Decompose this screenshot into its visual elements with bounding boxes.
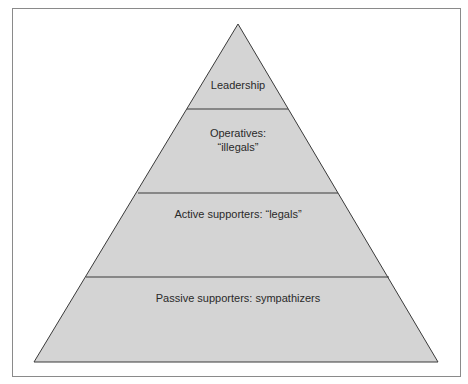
pyramid-diagram: Leadership Operatives: “illegals” Active… [0, 0, 468, 384]
tier-label-active-supporters: Active supporters: “legals” [174, 208, 301, 220]
tier-label-leadership: Leadership [211, 79, 265, 91]
tier-label-operatives-sub: “illegals” [218, 141, 259, 153]
tier-label-operatives: Operatives: [210, 127, 266, 139]
tier-label-passive-supporters: Passive supporters: sympathizers [156, 292, 321, 304]
